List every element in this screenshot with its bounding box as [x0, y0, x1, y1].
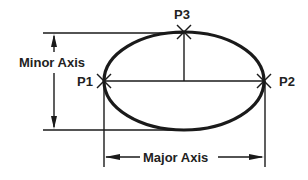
minor-axis-label: Minor Axis: [19, 55, 85, 70]
ellipse-diagram: P1 P2 P3 Minor Axis Major Axis: [0, 0, 308, 180]
arrow-right-icon: [249, 154, 264, 160]
p3-label: P3: [174, 7, 190, 22]
p2-label: P2: [279, 74, 295, 89]
minor-axis-dimension: [51, 34, 57, 129]
arrow-left-icon: [105, 154, 120, 160]
arrow-down-icon: [51, 116, 57, 129]
p1-label: P1: [77, 74, 93, 89]
arrow-up-icon: [51, 34, 57, 47]
major-axis-label: Major Axis: [143, 150, 208, 165]
